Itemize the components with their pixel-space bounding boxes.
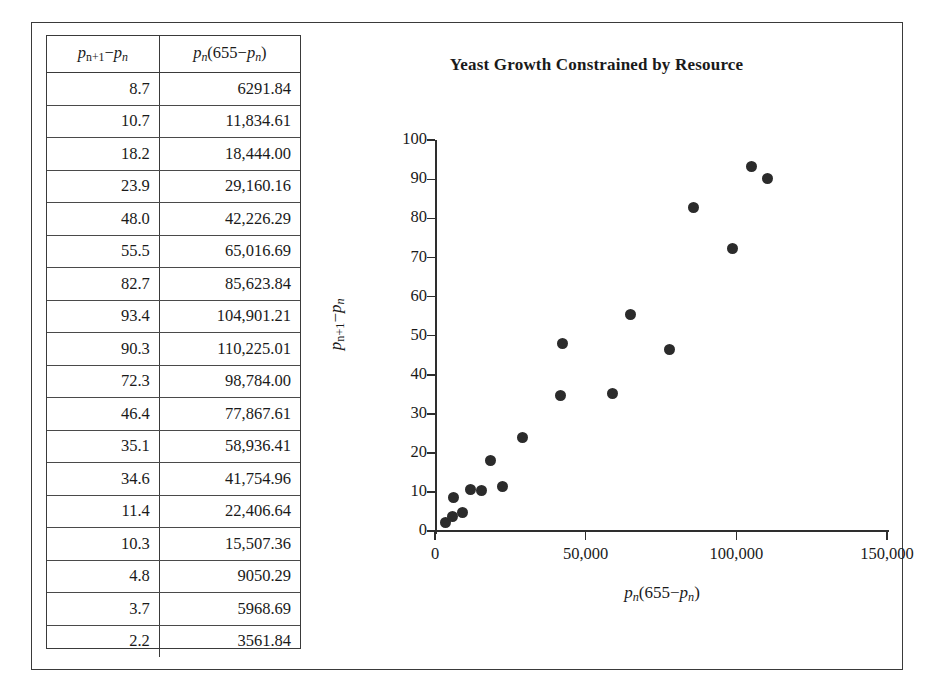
cell-delta-p: 10.7	[47, 105, 159, 138]
y-tick-label: 10	[383, 483, 427, 500]
cell-delta-p: 55.5	[47, 235, 159, 268]
cell-logistic-product: 110,225.01	[159, 333, 300, 366]
table-header-row: pn+1−pn pn(655−pn)	[47, 36, 300, 73]
cell-delta-p: 11.4	[47, 495, 159, 528]
figure-panel: pn+1−pn pn(655−pn) 8.76291.8410.711,834.…	[31, 22, 903, 670]
scatter-point	[625, 309, 636, 320]
y-tick-mark	[427, 257, 435, 259]
cell-delta-p: 18.2	[47, 138, 159, 171]
cell-delta-p: 4.8	[47, 560, 159, 593]
chart-panel: Yeast Growth Constrained by Resource 010…	[301, 23, 902, 669]
cell-logistic-product: 6291.84	[159, 73, 300, 106]
cell-delta-p: 3.7	[47, 593, 159, 626]
cell-logistic-product: 41,754.96	[159, 463, 300, 496]
table-row: 48.042,226.29	[47, 203, 300, 236]
cell-delta-p: 90.3	[47, 333, 159, 366]
table-row: 18.218,444.00	[47, 138, 300, 171]
scatter-point	[485, 455, 496, 466]
scatter-point	[746, 161, 757, 172]
y-tick-mark	[427, 218, 435, 220]
table-row: 3.75968.69	[47, 593, 300, 626]
cell-logistic-product: 18,444.00	[159, 138, 300, 171]
x-tick-mark	[886, 531, 888, 540]
cell-delta-p: 2.2	[47, 625, 159, 657]
cell-logistic-product: 11,834.61	[159, 105, 300, 138]
y-tick-label: 80	[383, 209, 427, 226]
x-tick-mark	[585, 531, 587, 540]
table-row: 23.929,160.16	[47, 170, 300, 203]
cell-logistic-product: 85,623.84	[159, 268, 300, 301]
cell-logistic-product: 15,507.36	[159, 528, 300, 561]
cell-delta-p: 48.0	[47, 203, 159, 236]
table-row: 35.158,936.41	[47, 430, 300, 463]
column-header-logistic-product: pn(655−pn)	[159, 36, 300, 73]
data-table-container: pn+1−pn pn(655−pn) 8.76291.8410.711,834.…	[46, 35, 301, 649]
x-tick-label: 50,000	[531, 546, 641, 563]
y-tick-mark	[427, 374, 435, 376]
cell-logistic-product: 3561.84	[159, 625, 300, 657]
y-tick-label: 0	[383, 522, 427, 539]
y-tick-label: 70	[383, 249, 427, 266]
table-row: 8.76291.84	[47, 73, 300, 106]
x-tick-mark	[736, 531, 738, 540]
scatter-point	[497, 481, 508, 492]
scatter-point	[555, 390, 566, 401]
scatter-point	[517, 432, 528, 443]
cell-logistic-product: 29,160.16	[159, 170, 300, 203]
table-row: 72.398,784.00	[47, 365, 300, 398]
scatter-point	[448, 492, 459, 503]
y-tick-label: 40	[383, 366, 427, 383]
x-tick-label: 100,000	[681, 546, 791, 563]
cell-delta-p: 46.4	[47, 398, 159, 431]
y-tick-mark	[427, 139, 435, 141]
table-row: 46.477,867.61	[47, 398, 300, 431]
y-tick-mark	[427, 179, 435, 181]
table-body: 8.76291.8410.711,834.6118.218,444.0023.9…	[47, 73, 300, 658]
x-tick-label: 0	[380, 546, 490, 563]
cell-logistic-product: 65,016.69	[159, 235, 300, 268]
cell-delta-p: 93.4	[47, 300, 159, 333]
x-tick-mark	[434, 531, 436, 540]
table-row: 4.89050.29	[47, 560, 300, 593]
y-tick-mark	[427, 413, 435, 415]
scatter-point	[664, 344, 675, 355]
cell-delta-p: 10.3	[47, 528, 159, 561]
scatter-plot: 0102030405060708090100 050,000100,000150…	[301, 23, 904, 671]
scatter-point	[557, 338, 568, 349]
scatter-point	[465, 484, 476, 495]
table-row: 82.785,623.84	[47, 268, 300, 301]
cell-logistic-product: 104,901.21	[159, 300, 300, 333]
table-row: 93.4104,901.21	[47, 300, 300, 333]
scatter-point	[727, 243, 738, 254]
x-tick-label: 150,000	[832, 546, 937, 563]
cell-delta-p: 23.9	[47, 170, 159, 203]
y-tick-mark	[427, 452, 435, 454]
table-row: 2.23561.84	[47, 625, 300, 657]
scatter-point	[476, 485, 487, 496]
cell-delta-p: 72.3	[47, 365, 159, 398]
y-tick-label: 60	[383, 288, 427, 305]
y-tick-mark	[427, 491, 435, 493]
cell-delta-p: 82.7	[47, 268, 159, 301]
y-tick-label: 100	[383, 131, 427, 148]
x-axis-line	[435, 530, 889, 532]
cell-delta-p: 34.6	[47, 463, 159, 496]
table-row: 10.711,834.61	[47, 105, 300, 138]
y-tick-label: 30	[383, 405, 427, 422]
table-row: 34.641,754.96	[47, 463, 300, 496]
y-tick-label: 20	[383, 444, 427, 461]
y-tick-label: 90	[383, 170, 427, 187]
scatter-point	[762, 173, 773, 184]
y-tick-mark	[427, 335, 435, 337]
scatter-point	[457, 507, 468, 518]
cell-logistic-product: 58,936.41	[159, 430, 300, 463]
data-table: pn+1−pn pn(655−pn) 8.76291.8410.711,834.…	[47, 36, 300, 657]
cell-logistic-product: 5968.69	[159, 593, 300, 626]
column-header-delta-p: pn+1−pn	[47, 36, 159, 73]
cell-logistic-product: 98,784.00	[159, 365, 300, 398]
y-axis-line	[435, 140, 437, 534]
table-head: pn+1−pn pn(655−pn)	[47, 36, 300, 73]
y-tick-mark	[427, 296, 435, 298]
cell-logistic-product: 77,867.61	[159, 398, 300, 431]
cell-delta-p: 35.1	[47, 430, 159, 463]
